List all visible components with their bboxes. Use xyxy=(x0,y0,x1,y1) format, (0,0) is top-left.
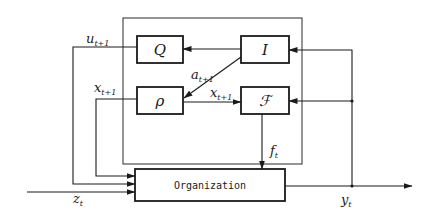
label-u: ut+1 xyxy=(86,31,109,48)
label-y: yt xyxy=(340,192,352,209)
label-a: at+1 xyxy=(191,67,214,84)
edge-feedback-to-i xyxy=(289,50,352,186)
block-organization-label: Organization xyxy=(174,180,246,191)
edge-q-to-organization xyxy=(73,47,137,184)
label-z: zt xyxy=(72,191,84,208)
block-i[interactable]: I xyxy=(241,36,289,63)
block-f[interactable]: ℱ xyxy=(241,87,289,114)
block-q-label: Q xyxy=(154,41,166,59)
label-x-left: xt+1 xyxy=(94,80,116,97)
label-f: ft xyxy=(269,143,279,160)
label-x-mid: xt+1 xyxy=(210,85,232,102)
block-i-label: I xyxy=(261,41,269,59)
block-q[interactable]: Q xyxy=(137,36,183,63)
block-p[interactable]: ρ xyxy=(137,87,183,114)
block-diagram: Q I ρ ℱ Organization ut+1 at+1 xt+1 xt+1… xyxy=(0,0,434,220)
junction-dot xyxy=(350,99,353,102)
block-p-label: ρ xyxy=(155,92,165,110)
block-organization[interactable]: Organization xyxy=(135,169,285,201)
